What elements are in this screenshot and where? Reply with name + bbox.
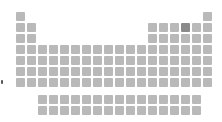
element-cell[interactable] — [71, 56, 80, 65]
element-cell[interactable] — [181, 67, 190, 76]
element-cell[interactable] — [104, 45, 113, 54]
element-cell[interactable] — [60, 45, 69, 54]
element-cell[interactable] — [203, 34, 212, 43]
element-cell[interactable] — [170, 23, 179, 32]
f-block-cell[interactable] — [126, 95, 135, 104]
element-cell[interactable] — [148, 78, 157, 87]
element-cell[interactable] — [82, 78, 91, 87]
element-cell[interactable] — [38, 45, 47, 54]
element-cell[interactable] — [159, 45, 168, 54]
element-cell[interactable] — [181, 78, 190, 87]
element-cell[interactable] — [27, 56, 36, 65]
f-block-cell[interactable] — [82, 106, 91, 115]
f-block-cell[interactable] — [93, 106, 102, 115]
element-cell[interactable] — [93, 56, 102, 65]
element-cell[interactable] — [203, 67, 212, 76]
f-block-cell[interactable] — [137, 95, 146, 104]
f-block-cell[interactable] — [60, 106, 69, 115]
element-cell[interactable] — [60, 56, 69, 65]
element-cell[interactable] — [181, 56, 190, 65]
f-block-cell[interactable] — [148, 106, 157, 115]
element-cell[interactable] — [49, 56, 58, 65]
element-cell[interactable] — [126, 67, 135, 76]
f-block-cell[interactable] — [38, 95, 47, 104]
element-cell[interactable] — [27, 23, 36, 32]
element-cell[interactable] — [148, 34, 157, 43]
element-cell[interactable] — [16, 34, 25, 43]
f-block-cell[interactable] — [181, 95, 190, 104]
element-cell[interactable] — [181, 45, 190, 54]
f-block-cell[interactable] — [170, 95, 179, 104]
element-cell[interactable] — [192, 23, 201, 32]
f-block-cell[interactable] — [148, 95, 157, 104]
element-cell[interactable] — [104, 67, 113, 76]
f-block-cell[interactable] — [137, 106, 146, 115]
element-cell[interactable] — [148, 23, 157, 32]
element-cell[interactable] — [93, 45, 102, 54]
element-cell[interactable] — [203, 45, 212, 54]
f-block-cell[interactable] — [159, 95, 168, 104]
element-cell[interactable] — [148, 45, 157, 54]
f-block-cell[interactable] — [181, 106, 190, 115]
element-cell[interactable] — [159, 23, 168, 32]
element-cell[interactable] — [203, 56, 212, 65]
element-cell[interactable] — [82, 56, 91, 65]
f-block-cell[interactable] — [93, 95, 102, 104]
element-cell[interactable] — [27, 34, 36, 43]
element-cell[interactable] — [170, 67, 179, 76]
element-cell[interactable] — [93, 67, 102, 76]
element-cell[interactable] — [192, 67, 201, 76]
element-cell[interactable] — [170, 78, 179, 87]
element-cell[interactable] — [27, 78, 36, 87]
element-cell[interactable] — [192, 56, 201, 65]
element-cell[interactable] — [137, 45, 146, 54]
element-cell[interactable] — [27, 67, 36, 76]
f-block-cell[interactable] — [192, 95, 201, 104]
element-cell[interactable] — [60, 67, 69, 76]
element-cell[interactable] — [126, 78, 135, 87]
element-cell[interactable] — [71, 45, 80, 54]
element-cell[interactable] — [203, 78, 212, 87]
element-cell[interactable] — [137, 67, 146, 76]
element-cell[interactable] — [104, 56, 113, 65]
f-block-cell[interactable] — [192, 106, 201, 115]
f-block-cell[interactable] — [104, 106, 113, 115]
f-block-cell[interactable] — [115, 95, 124, 104]
element-cell[interactable] — [170, 34, 179, 43]
f-block-cell[interactable] — [115, 106, 124, 115]
element-cell[interactable] — [203, 12, 212, 21]
element-cell[interactable] — [16, 78, 25, 87]
element-cell[interactable] — [49, 78, 58, 87]
element-cell[interactable] — [115, 78, 124, 87]
f-block-cell[interactable] — [60, 95, 69, 104]
element-cell[interactable] — [115, 67, 124, 76]
element-cell[interactable] — [126, 56, 135, 65]
f-block-cell[interactable] — [104, 95, 113, 104]
element-cell[interactable] — [82, 45, 91, 54]
element-cell[interactable] — [71, 78, 80, 87]
element-cell[interactable] — [16, 67, 25, 76]
element-cell[interactable] — [115, 56, 124, 65]
f-block-cell[interactable] — [71, 106, 80, 115]
element-cell[interactable] — [115, 45, 124, 54]
element-cell[interactable] — [38, 56, 47, 65]
element-cell[interactable] — [38, 67, 47, 76]
element-cell[interactable] — [137, 56, 146, 65]
element-cell[interactable] — [159, 67, 168, 76]
element-cell[interactable] — [192, 34, 201, 43]
element-cell[interactable] — [16, 45, 25, 54]
element-cell[interactable] — [126, 45, 135, 54]
element-cell[interactable] — [159, 34, 168, 43]
element-cell[interactable] — [192, 78, 201, 87]
element-cell[interactable] — [170, 56, 179, 65]
element-cell[interactable] — [16, 23, 25, 32]
element-cell[interactable] — [159, 78, 168, 87]
element-cell[interactable] — [203, 23, 212, 32]
element-cell[interactable] — [93, 78, 102, 87]
element-cell[interactable] — [159, 56, 168, 65]
element-cell[interactable] — [49, 67, 58, 76]
f-block-cell[interactable] — [38, 106, 47, 115]
element-cell[interactable] — [192, 45, 201, 54]
element-cell[interactable] — [148, 67, 157, 76]
element-cell[interactable] — [104, 78, 113, 87]
